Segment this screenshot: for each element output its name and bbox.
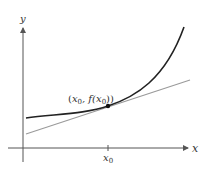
tangent-point — [106, 104, 110, 108]
tangent-diagram: x y x0 (x0, f(x0)) — [0, 0, 207, 174]
x-axis-label: x — [192, 142, 199, 155]
x0-tick-label: x0 — [103, 152, 113, 165]
y-axis-label: y — [19, 13, 26, 24]
